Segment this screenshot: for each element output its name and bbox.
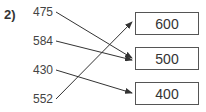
arrow-552-to-600 — [56, 22, 132, 99]
arrow-430-to-400 — [56, 70, 132, 93]
box-400: 400 — [135, 82, 199, 105]
arrow-584-to-500 — [56, 41, 132, 60]
box-600: 600 — [135, 12, 199, 35]
arrow-475-to-500 — [56, 12, 132, 58]
box-500: 500 — [135, 47, 199, 70]
